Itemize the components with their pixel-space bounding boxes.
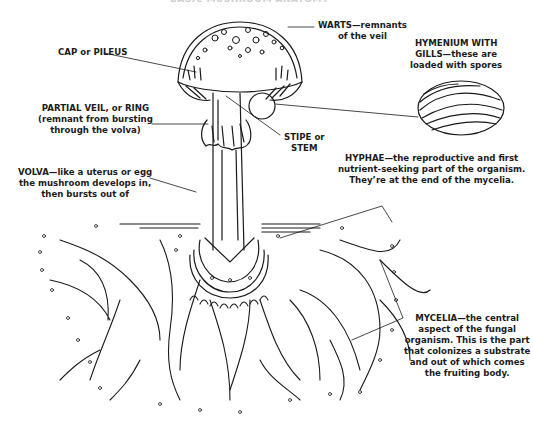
label-mycelia: MYCELIA—the central aspect of the fungal…: [404, 313, 530, 379]
label-volva: VOLVA—like a uterus or egg the mushroom …: [18, 167, 152, 200]
label-hymenium: HYMENIUM WITH GILLS—these are loaded wit…: [410, 38, 502, 71]
label-stipe: STIPE or STEM: [284, 132, 325, 154]
label-hyphae: HYPHAE—the reproductive and first nutrie…: [338, 153, 525, 186]
label-warts: WARTS—remnants of the veil: [318, 20, 407, 42]
ground-lines: [120, 224, 320, 232]
volva-leader: [150, 178, 196, 192]
label-cap: CAP or PILEUS: [58, 47, 127, 58]
hymenium-leader: [275, 104, 418, 117]
mushroom-stem: [213, 93, 244, 250]
stipe-leader: [226, 96, 280, 135]
label-partial-veil: PARTIAL VEIL, or RING (remnant from burs…: [38, 103, 153, 136]
mycelia-network: [50, 240, 430, 400]
hyphae-leader: [280, 206, 392, 238]
volva: [190, 238, 268, 298]
hymenium-gills-inset: [418, 81, 504, 135]
mushroom-cap: [178, 22, 302, 100]
partial-veil-ring: [202, 120, 251, 150]
